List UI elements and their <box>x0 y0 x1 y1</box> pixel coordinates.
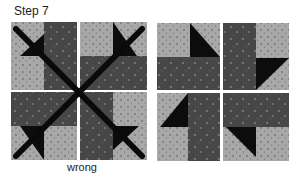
quadrant-bottom-left <box>157 93 220 161</box>
quadrant-bottom-right <box>223 93 289 161</box>
quadrant-top-left <box>157 23 220 90</box>
quadrant-top-right <box>223 23 289 90</box>
wrong-caption: wrong <box>67 161 97 173</box>
block-wrong <box>11 22 147 160</box>
quilt-diagram <box>0 0 298 183</box>
block-correct <box>157 23 289 161</box>
